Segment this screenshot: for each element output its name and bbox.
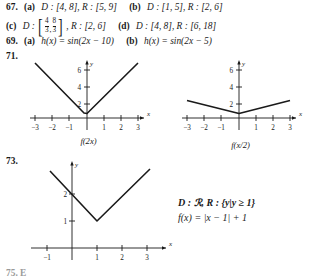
x-tick-label: −3 [183, 124, 191, 132]
graph-f2x: −3 −2 −1 1 2 3 2 4 6 x y [26, 56, 151, 138]
x-axis-arrow-icon [140, 116, 144, 120]
x-axis-arrow-icon [292, 116, 296, 120]
graph-f2x-svg: −3 −2 −1 1 2 3 2 4 6 x y [26, 56, 151, 138]
x-tick-label: 2 [120, 254, 124, 262]
x-tick-label: −1 [217, 124, 225, 132]
x-tick-label: 1 [254, 124, 258, 132]
y-tick-label: 4 [229, 84, 233, 92]
part-text-67c-suffix: , R : [2, 6] [66, 21, 106, 31]
exercise-69-line: 69. (a) h(x) = sin(2x − 10) (b) h(x) = s… [6, 37, 212, 46]
graph-abs-x-minus-1: −1 1 2 3 1 2 x y [26, 155, 176, 267]
y-tick-label: 2 [63, 191, 67, 199]
x-axis-label: x [168, 240, 173, 248]
y-axis-label: y [74, 161, 79, 169]
part-text-67a: D : [4, 8], R : [5, 9] [41, 2, 117, 12]
part-text-67c-prefix: D : [23, 21, 35, 31]
graph-fx-over-2-svg: −3 −2 −1 1 2 3 2 4 6 x y [178, 56, 303, 138]
fraction-eight-thirds: 8 3 [52, 18, 58, 35]
left-bracket-icon: [ [38, 18, 43, 34]
graph-fx-over-2: −3 −2 −1 1 2 3 2 4 6 x y [178, 56, 303, 138]
x-tick-label: −3 [31, 124, 39, 132]
y-axis-arrow-icon [237, 60, 240, 64]
plot-line-fx-over-2 [187, 101, 290, 114]
part-text-69b: h(x) = sin(2x − 5) [144, 36, 212, 46]
x-tick-label: 1 [102, 124, 106, 132]
function-equation-text: f(x) = |x − 1| + 1 [178, 211, 255, 226]
part-text-69a: h(x) = sin(2x − 10) [41, 36, 114, 46]
x-tick-label: −1 [43, 254, 51, 262]
part-label-67d: (d) [118, 21, 129, 31]
x-tick-label: 3 [288, 124, 292, 132]
x-tick-label: −1 [65, 124, 73, 132]
x-axis-arrow-icon [162, 246, 166, 250]
right-bracket-icon: ] [58, 18, 63, 34]
exercise-67-line1: 67. (a) D : [4, 8], R : [5, 9] (b) D : [… [6, 3, 223, 12]
x-axis-label: x [146, 110, 151, 118]
part-text-67d: D : [4, 8], R : [6, 18] [136, 21, 216, 31]
y-tick-label: 2 [229, 101, 233, 109]
domain-range-text: D : ℛ, R : {y|y ≥ 1} [178, 196, 255, 211]
x-axis-label: x [298, 110, 303, 118]
plot-line-f2x [35, 63, 138, 114]
exercise-67-line2: (c) D : [ 4 3 , 8 3 ] , R : [2, 6] (d) D… [6, 18, 216, 35]
answer-73-description: D : ℛ, R : {y|y ≥ 1} f(x) = |x − 1| + 1 [178, 196, 255, 225]
interval-bracket-group-67c: [ 4 3 , 8 3 ] [37, 18, 64, 35]
part-label-69a: (a) [24, 36, 35, 46]
exercise-number-69: 69. [6, 36, 18, 46]
exercise-number-67: 67. [6, 2, 18, 12]
part-label-67a: (a) [24, 2, 35, 12]
x-tick-label: −2 [48, 124, 56, 132]
x-tick-label: 1 [95, 254, 99, 262]
graph-caption-fx-over-2: f(x/2) [178, 140, 303, 150]
y-axis-arrow-icon [85, 60, 88, 64]
exercise-73-number-row: 73. [6, 157, 18, 166]
exercise-71-number-row: 71. [6, 52, 18, 61]
part-text-67b: D : [1, 5], R : [2, 6] [147, 2, 223, 12]
x-tick-label: 2 [119, 124, 123, 132]
part-label-69b: (b) [126, 36, 137, 46]
part-label-67c: (c) [6, 21, 16, 31]
exercise-number-71: 71. [6, 51, 18, 61]
x-tick-label: 2 [271, 124, 275, 132]
y-tick-label: 1 [63, 218, 67, 226]
part-label-67b: (b) [129, 2, 140, 12]
y-axis-label: y [89, 60, 94, 68]
exercise-number-73: 73. [6, 156, 18, 166]
x-tick-label: 3 [136, 124, 140, 132]
y-axis-label: y [241, 60, 246, 68]
x-tick-label: 3 [145, 254, 149, 262]
y-axis-arrow-icon [70, 161, 73, 165]
graph-abs-x-minus-1-svg: −1 1 2 3 1 2 x y [26, 155, 176, 267]
answer-key-page: 67. (a) D : [4, 8], R : [5, 9] (b) D : [… [0, 0, 310, 277]
y-tick-label: 6 [229, 67, 233, 75]
graph-caption-f2x: f(2x) [26, 136, 151, 146]
y-tick-label: 6 [77, 67, 81, 75]
next-exercise-cut-off: 75. E [6, 268, 26, 277]
y-tick-label: 4 [77, 84, 81, 92]
x-tick-label: −2 [200, 124, 208, 132]
